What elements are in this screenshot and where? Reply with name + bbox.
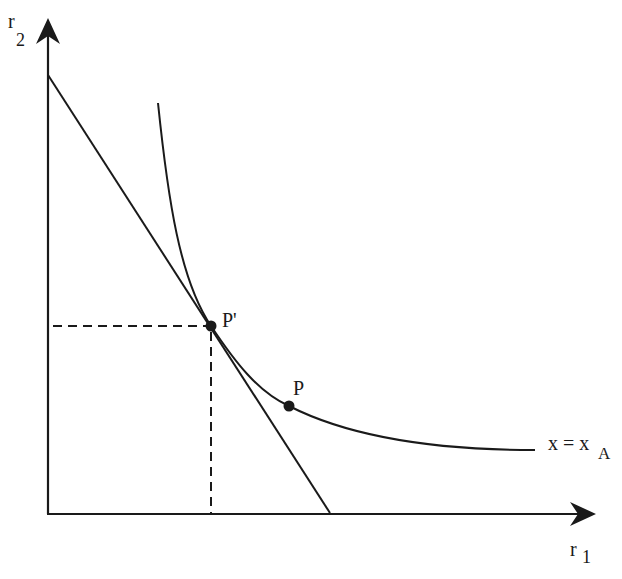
x-axis-label: r — [570, 538, 577, 560]
curve-label: x = x — [548, 432, 589, 454]
point-p-prime-label: P' — [222, 309, 237, 331]
y-axis-label-subscript: 2 — [16, 30, 25, 50]
isoquant-curve — [158, 103, 535, 450]
curve-label-subscript: A — [598, 444, 611, 463]
isocost-line — [48, 75, 330, 513]
x-axis-label-subscript: 1 — [582, 547, 591, 567]
point-p — [284, 401, 295, 412]
point-p-label: P — [293, 377, 304, 399]
y-axis-label: r — [8, 10, 15, 32]
diagram-canvas: P' P r 2 r 1 x = x A — [0, 0, 622, 579]
point-p-prime — [206, 321, 217, 332]
